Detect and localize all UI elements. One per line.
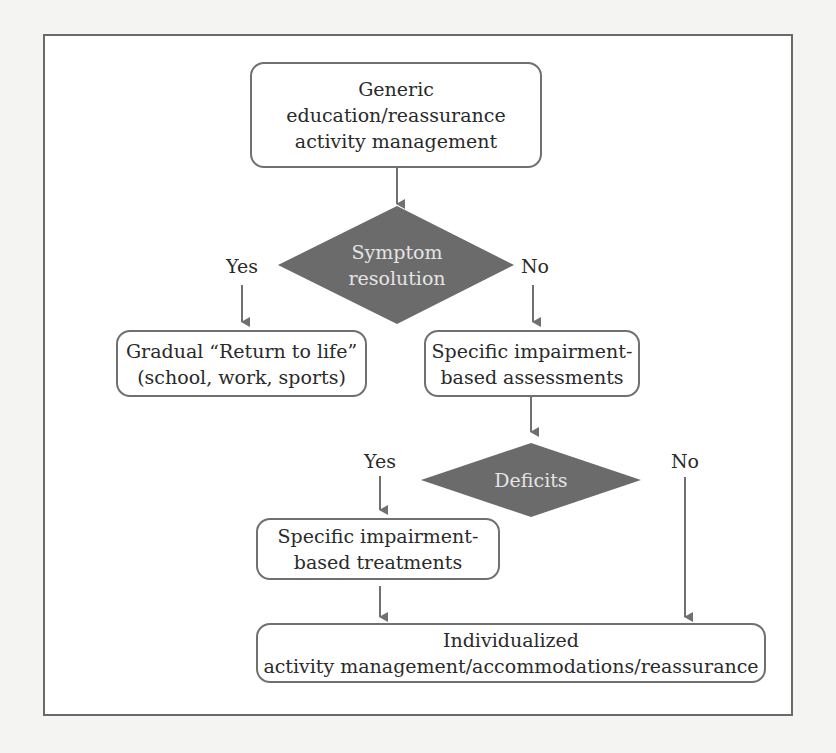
node-generic-education: Generic education/reassurance activity m… bbox=[250, 62, 542, 168]
node-return-to-life: Gradual “Return to life” (school, work, … bbox=[116, 330, 367, 397]
node-individualized-text: Individualized activity management/accom… bbox=[263, 627, 758, 679]
deficits-yes-label: Yes bbox=[364, 450, 396, 472]
symptom-no-label: No bbox=[521, 255, 549, 277]
symptom-yes-label: Yes bbox=[226, 255, 258, 277]
node-individualized: Individualized activity management/accom… bbox=[256, 623, 766, 683]
symptom-resolution-text: Symptom resolution bbox=[348, 239, 445, 291]
node-return-to-life-text: Gradual “Return to life” (school, work, … bbox=[126, 338, 357, 390]
deficits-text: Deficits bbox=[494, 467, 567, 493]
node-assessments-text: Specific impairment- based assessments bbox=[432, 338, 633, 390]
node-treatments: Specific impairment- based treatments bbox=[256, 518, 500, 580]
deficits-no-label: No bbox=[671, 450, 699, 472]
node-assessments: Specific impairment- based assessments bbox=[424, 330, 640, 397]
node-treatments-text: Specific impairment- based treatments bbox=[278, 523, 479, 575]
node-generic-education-text: Generic education/reassurance activity m… bbox=[286, 76, 505, 154]
